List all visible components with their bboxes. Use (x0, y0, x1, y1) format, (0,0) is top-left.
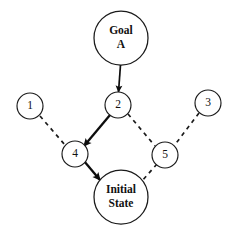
state-space-diagram: GoalA21345InitialState (0, 0, 239, 235)
node-initial-state-label-line-1: State (109, 197, 134, 209)
edge-node-3-to-node-5 (174, 113, 199, 146)
node-node-5-label-line-0: 5 (162, 148, 168, 160)
nodes-layer: GoalA21345InitialState (17, 11, 221, 224)
node-goal-a-label-line-1: A (117, 38, 126, 50)
node-initial-state-label-line-0: Initial (106, 182, 136, 194)
node-goal-a[interactable]: GoalA (94, 11, 148, 65)
node-node-2[interactable]: 2 (105, 92, 131, 118)
edge-node-2-to-node-4 (84, 115, 110, 146)
node-node-1-label-line-0: 1 (27, 99, 33, 111)
edge-goal-a-to-node-2 (119, 65, 121, 92)
node-node-4-label: 4 (72, 147, 78, 159)
node-node-3[interactable]: 3 (195, 90, 221, 116)
edge-node-5-to-initial-state (142, 164, 157, 181)
node-node-4-label-line-0: 4 (72, 147, 78, 159)
node-node-5[interactable]: 5 (152, 142, 178, 168)
node-node-2-label: 2 (115, 98, 121, 110)
node-node-2-label-line-0: 2 (115, 98, 121, 110)
node-initial-state[interactable]: InitialState (94, 170, 148, 224)
node-node-3-label-line-0: 3 (205, 96, 211, 108)
node-node-5-label: 5 (162, 148, 168, 160)
edge-node-4-to-initial-state (84, 161, 100, 180)
node-node-1[interactable]: 1 (17, 93, 43, 119)
node-node-4[interactable]: 4 (62, 141, 88, 167)
node-goal-a-label-line-0: Goal (109, 23, 133, 35)
edge-node-1-to-node-4 (40, 116, 65, 145)
node-node-3-label: 3 (205, 96, 211, 108)
node-node-1-label: 1 (27, 99, 33, 111)
edge-node-2-to-node-5 (128, 114, 155, 146)
graph-canvas: GoalA21345InitialState (0, 0, 239, 235)
